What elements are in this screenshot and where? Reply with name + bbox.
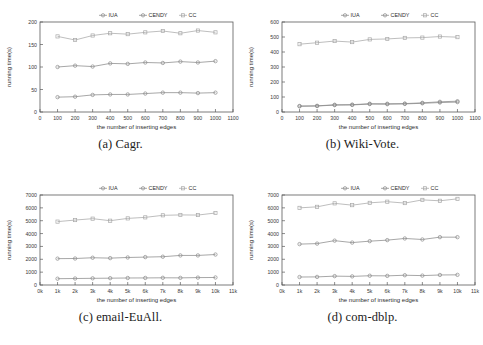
chart-svg-a: 0100200300400500600700800900100011000501…: [0, 0, 241, 140]
y-tick-label: 2000: [25, 256, 37, 262]
x-tick-label: 1100: [227, 115, 238, 121]
x-tick-label: 700: [158, 115, 167, 121]
x-tick-label: 6k: [143, 288, 149, 294]
series-line-iua: [58, 277, 216, 278]
chart-svg-c: 0k1k2k3k4k5k6k7k8k9k10k11k01000200030004…: [0, 173, 241, 313]
y-tick-label: 500: [270, 34, 279, 40]
y-tick-label: 0: [276, 282, 279, 288]
y-tick-label: 100: [270, 94, 279, 100]
x-tick-label: 200: [71, 115, 80, 121]
y-axis-label: running time(s): [248, 47, 254, 87]
y-tick-label: 200: [28, 19, 37, 25]
caption-a: (a) Cagr.: [0, 137, 241, 152]
y-tick-label: 6000: [25, 205, 37, 211]
legend-label-cendy: CENDY: [391, 185, 410, 191]
x-tick-label: 600: [383, 115, 392, 121]
y-tick-label: 1000: [25, 269, 37, 275]
legend-label-cendy: CENDY: [149, 185, 168, 191]
chart-panel-c: 0k1k2k3k4k5k6k7k8k9k10k11k01000200030004…: [0, 173, 241, 345]
x-tick-label: 1k: [55, 288, 61, 294]
x-axis-label: the number of inserting edges: [97, 297, 176, 303]
caption-d: (d) com-dblp.: [242, 310, 483, 325]
x-tick-label: 2k: [314, 288, 320, 294]
y-tick-label: 0: [276, 109, 279, 115]
series-line-cc: [58, 213, 216, 222]
x-tick-label: 5k: [367, 288, 373, 294]
legend-label-iua: IUA: [109, 185, 118, 191]
plot-area-c: 0k1k2k3k4k5k6k7k8k9k10k11k01000200030004…: [0, 173, 241, 313]
x-tick-label: 500: [123, 115, 132, 121]
y-tick-label: 300: [270, 64, 279, 70]
y-tick-label: 5000: [267, 218, 279, 224]
y-axis-label: running time(s): [248, 220, 254, 260]
x-tick-label: 800: [418, 115, 427, 121]
x-tick-label: 900: [436, 115, 445, 121]
chart-panel-d: 0k1k2k3k4k5k6k7k8k9k10k11k01000200030004…: [242, 173, 483, 345]
x-tick-label: 100: [53, 115, 62, 121]
x-tick-label: 1000: [452, 115, 464, 121]
y-tick-label: 4000: [267, 231, 279, 237]
figure-container: 0100200300400500600700800900100011000501…: [0, 0, 483, 345]
x-tick-label: 0: [39, 115, 42, 121]
x-tick-label: 10k: [453, 288, 462, 294]
series-line-cc: [300, 37, 458, 45]
y-tick-label: 400: [270, 49, 279, 55]
x-tick-label: 0: [281, 115, 284, 121]
chart-svg-d: 0k1k2k3k4k5k6k7k8k9k10k11k01000200030004…: [242, 173, 483, 313]
y-tick-label: 0: [34, 109, 37, 115]
x-tick-label: 4k: [349, 288, 355, 294]
series-line-cendy: [300, 102, 458, 106]
x-tick-label: 400: [348, 115, 357, 121]
x-axis-label: the number of inserting edges: [97, 124, 176, 130]
chart-panel-a: 0100200300400500600700800900100011000501…: [0, 0, 241, 172]
x-tick-label: 10k: [211, 288, 220, 294]
legend-label-cc: CC: [189, 185, 197, 191]
y-tick-label: 6000: [267, 205, 279, 211]
legend-label-cc: CC: [189, 12, 197, 18]
legend-label-cc: CC: [431, 12, 439, 18]
x-tick-label: 800: [176, 115, 185, 121]
series-line-iua: [300, 101, 458, 106]
y-axis-label: running time(s): [6, 47, 12, 87]
x-tick-label: 2k: [72, 288, 78, 294]
y-tick-label: 1000: [267, 269, 279, 275]
x-tick-label: 1000: [210, 115, 222, 121]
x-tick-label: 8k: [420, 288, 426, 294]
x-tick-label: 0k: [37, 288, 43, 294]
x-axis-label: the number of inserting edges: [339, 297, 418, 303]
legend-label-iua: IUA: [351, 185, 360, 191]
x-tick-label: 700: [400, 115, 409, 121]
plot-area-d: 0k1k2k3k4k5k6k7k8k9k10k11k01000200030004…: [242, 173, 483, 313]
y-tick-label: 3000: [25, 243, 37, 249]
y-tick-label: 200: [270, 79, 279, 85]
series-line-cendy: [58, 61, 216, 67]
series-line-cc: [58, 31, 216, 40]
x-tick-label: 5k: [125, 288, 131, 294]
series-line-cendy: [300, 237, 458, 244]
y-tick-label: 2000: [267, 256, 279, 262]
chart-svg-b: 0100200300400500600700800900100011000100…: [242, 0, 483, 140]
x-tick-label: 600: [141, 115, 150, 121]
legend-label-cc: CC: [431, 185, 439, 191]
y-tick-label: 0: [34, 282, 37, 288]
y-tick-label: 3000: [267, 243, 279, 249]
plot-area-b: 0100200300400500600700800900100011000100…: [242, 0, 483, 140]
x-tick-label: 0k: [279, 288, 285, 294]
series-line-iua: [58, 93, 216, 98]
x-tick-label: 500: [365, 115, 374, 121]
y-tick-label: 5000: [25, 218, 37, 224]
x-axis-label: the number of inserting edges: [339, 124, 418, 130]
x-tick-label: 3k: [332, 288, 338, 294]
x-tick-label: 1k: [297, 288, 303, 294]
y-tick-label: 7000: [25, 192, 37, 198]
x-tick-label: 11k: [229, 288, 237, 294]
x-tick-label: 8k: [178, 288, 184, 294]
x-tick-label: 100: [295, 115, 304, 121]
legend-label-cendy: CENDY: [149, 12, 168, 18]
y-tick-label: 4000: [25, 231, 37, 237]
y-tick-label: 7000: [267, 192, 279, 198]
chart-panel-b: 0100200300400500600700800900100011000100…: [242, 0, 483, 172]
x-tick-label: 9k: [437, 288, 443, 294]
x-tick-label: 11k: [471, 288, 479, 294]
series-line-cc: [300, 199, 458, 208]
